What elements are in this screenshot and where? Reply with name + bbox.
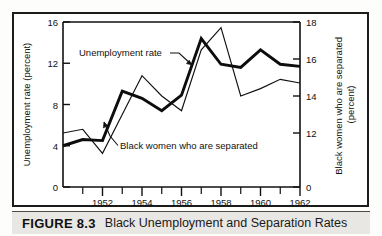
xtick-1960: 1960: [250, 197, 271, 207]
y2tick-16: 16: [306, 54, 317, 65]
xtick-1958: 1958: [210, 197, 231, 207]
annotation-label-unemployment-rate: Unemployment rate: [79, 47, 162, 58]
annotation-black-women-separated: Black women who are separated: [103, 122, 258, 151]
annotation-label-black-women-separated: Black women who are separated: [120, 140, 258, 151]
chart-plot: 16 12 8 4 0 18 16 14 12 0: [12, 12, 369, 207]
xtick-1952: 1952: [92, 197, 113, 207]
y-axis-right-ticks: [293, 22, 300, 187]
y2tick-0: 0: [306, 182, 311, 193]
ytick-16: 16: [47, 17, 58, 28]
ytick-8: 8: [53, 100, 58, 111]
ytick-12: 12: [47, 58, 58, 69]
y-axis-right-title: Black women who are separated (percent): [333, 34, 356, 174]
y-axis-left-title: Unemployment rate (percent): [21, 43, 32, 167]
xtick-1956: 1956: [171, 197, 192, 207]
xtick-1954: 1954: [131, 197, 152, 207]
figure-number-label: FIGURE 8.3: [22, 216, 96, 231]
y2tick-18: 18: [306, 17, 317, 28]
x-axis-ticks: [83, 187, 300, 196]
y2tick-12: 12: [306, 128, 317, 139]
figure-caption-text: Black Unemployment and Separation Rates: [105, 216, 348, 230]
y-axis-right-tick-labels: 18 16 14 12 0: [306, 17, 317, 193]
y-axis-left-ticks: [63, 22, 70, 187]
y2tick-14: 14: [306, 91, 317, 102]
x-axis-tick-labels: 1952 1954 1956 1958 1960 1962: [92, 197, 311, 207]
xtick-1962: 1962: [289, 197, 310, 207]
ytick-4: 4: [53, 141, 58, 152]
y-axis-left-tick-labels: 16 12 8 4 0: [47, 17, 58, 193]
figure-container: 16 12 8 4 0 18 16 14 12 0: [0, 0, 382, 236]
annotation-unemployment-rate: Unemployment rate: [79, 47, 192, 65]
figure-caption: FIGURE 8.3 Black Unemployment and Separa…: [12, 212, 370, 234]
ytick-0: 0: [53, 182, 58, 193]
